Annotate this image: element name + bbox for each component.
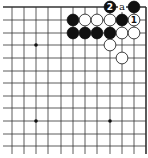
- black-stone: [128, 1, 140, 13]
- white-stone: [104, 39, 116, 51]
- move-number-label: 2: [107, 2, 113, 12]
- white-stone: [116, 52, 128, 64]
- white-stone: [91, 14, 103, 26]
- black-stone: [116, 14, 128, 26]
- white-stone: [116, 27, 128, 39]
- go-board: 21 a: [0, 0, 148, 158]
- star-point: [108, 119, 112, 123]
- white-stone: [128, 27, 140, 39]
- star-point: [34, 43, 38, 47]
- white-stone: [79, 14, 91, 26]
- black-stone: [91, 27, 103, 39]
- black-stone: [79, 27, 91, 39]
- point-labels: a: [118, 1, 126, 12]
- black-stone: [67, 14, 79, 26]
- point-label-a: a: [119, 1, 125, 12]
- white-stone: [104, 14, 116, 26]
- black-stone: 2: [104, 1, 116, 13]
- star-point: [34, 119, 38, 123]
- stones: 21: [67, 1, 140, 64]
- black-stone: [67, 27, 79, 39]
- move-number-label: 1: [131, 15, 137, 25]
- black-stone: [104, 27, 116, 39]
- white-stone: 1: [128, 14, 140, 26]
